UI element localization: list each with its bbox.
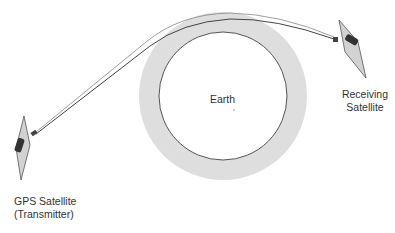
antenna (30, 130, 37, 137)
earth-label: Earth (210, 93, 235, 106)
receiving-satellite-label: Receiving Satellite (335, 88, 395, 114)
gps-satellite-label: GPS Satellite (Transmitter) (14, 195, 76, 221)
antenna (333, 37, 338, 42)
receiving-satellite-label-line1: Receiving (335, 88, 395, 101)
gps-satellite-label-line1: GPS Satellite (14, 195, 76, 208)
earth-center-dot (233, 109, 234, 110)
gps-satellite-label-line2: (Transmitter) (14, 208, 76, 221)
gps-satellite-icon (14, 116, 38, 180)
receiving-satellite-label-line2: Satellite (335, 101, 395, 114)
receiving-satellite-icon (333, 20, 366, 78)
solar-panel (339, 20, 366, 78)
